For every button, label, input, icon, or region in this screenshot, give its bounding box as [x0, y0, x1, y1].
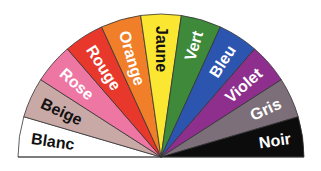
sector-label: Jaune	[153, 26, 170, 72]
colour-fan-diagram: BlancBeigeRoseRougeOrangeJauneVertBleuVi…	[0, 0, 321, 171]
